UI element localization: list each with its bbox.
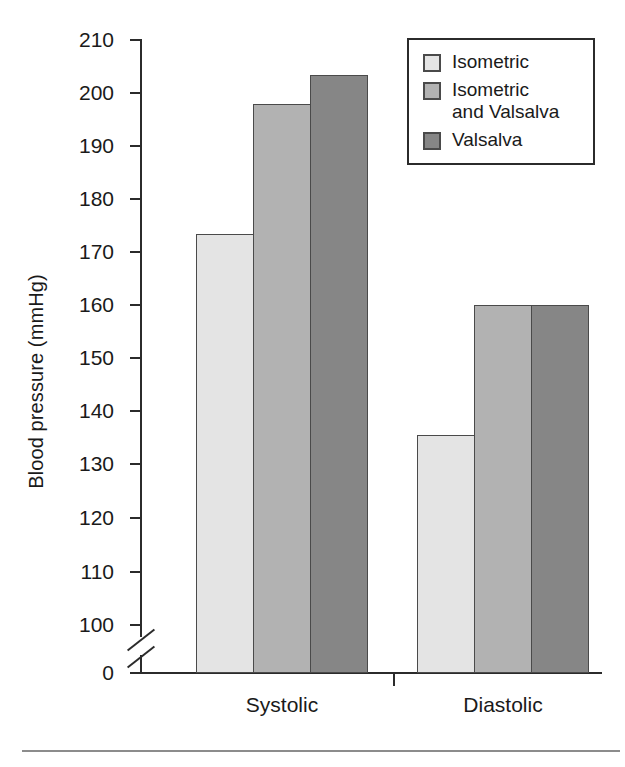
x-axis-group-label-diastolic: Diastolic <box>413 693 593 717</box>
y-tick-label: 170 <box>56 241 114 262</box>
y-tick-label: 160 <box>56 294 114 315</box>
y-tick-mark <box>130 517 141 519</box>
y-tick-mark <box>130 463 141 465</box>
bar-systolic-valsalva[interactable] <box>310 75 368 673</box>
y-tick-mark <box>130 357 141 359</box>
y-axis-tick-labels: 210 200 190 180 170 160 150 140 130 120 … <box>46 0 114 700</box>
y-axis-line-upper <box>140 39 142 637</box>
x-axis-group-separator-tick <box>393 674 395 686</box>
y-axis-title: Blood pressure (mmHg) <box>25 252 48 512</box>
y-tick-label: 180 <box>56 188 114 209</box>
bar-systolic-isometric-and-valsalva[interactable] <box>253 104 311 673</box>
bar-diastolic-isometric-and-valsalva[interactable] <box>474 305 532 673</box>
y-tick-mark <box>130 410 141 412</box>
y-tick-label: 140 <box>56 400 114 421</box>
legend-swatch-icon <box>423 132 441 150</box>
y-tick-label: 120 <box>56 507 114 528</box>
legend-item-isometric-and-valsalva[interactable]: Isometric and Valsalva <box>409 79 593 123</box>
y-tick-label: 200 <box>56 82 114 103</box>
x-axis-group-label-systolic: Systolic <box>192 693 372 717</box>
y-tick-mark <box>130 304 141 306</box>
y-tick-label: 0 <box>56 662 114 683</box>
y-tick-mark <box>130 624 141 626</box>
y-tick-mark <box>130 571 141 573</box>
y-tick-label: 100 <box>56 614 114 635</box>
y-tick-mark <box>130 92 141 94</box>
legend-item-label: Isometric <box>452 51 529 73</box>
legend-item-label: Isometric and Valsalva <box>452 79 559 123</box>
bar-diastolic-isometric[interactable] <box>417 435 475 673</box>
y-tick-mark <box>130 145 141 147</box>
bottom-divider <box>22 750 620 752</box>
y-tick-label: 210 <box>56 29 114 50</box>
y-tick-mark <box>130 251 141 253</box>
legend: Isometric Isometric and Valsalva Valsalv… <box>407 38 595 165</box>
y-tick-label: 150 <box>56 347 114 368</box>
bar-chart-figure: Blood pressure (mmHg) 210 200 190 180 17… <box>0 0 625 767</box>
legend-swatch-icon <box>423 82 441 100</box>
legend-swatch-icon <box>423 54 441 72</box>
y-tick-mark <box>130 39 141 41</box>
legend-item-valsalva[interactable]: Valsalva <box>409 129 593 151</box>
y-tick-label: 130 <box>56 453 114 474</box>
y-tick-mark <box>130 198 141 200</box>
legend-item-label: Valsalva <box>452 129 522 151</box>
y-tick-label: 190 <box>56 135 114 156</box>
y-tick-label: 110 <box>56 561 114 582</box>
bar-diastolic-valsalva[interactable] <box>531 305 589 673</box>
bar-systolic-isometric[interactable] <box>196 234 254 673</box>
legend-item-isometric[interactable]: Isometric <box>409 51 593 73</box>
